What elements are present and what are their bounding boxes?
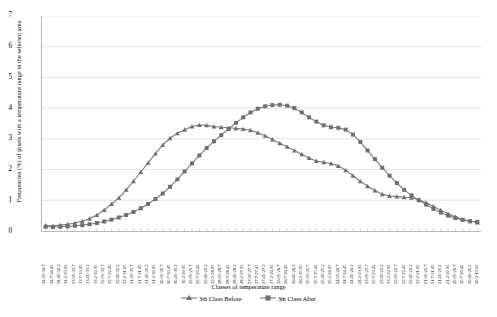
x-tick-label: 23.7-23.45: [371, 265, 376, 284]
x-tick-label: 31.95-31.7: [129, 265, 134, 284]
x-tick-label: 21.7-21.45: [430, 265, 435, 284]
y-tick-value: 5: [0, 73, 12, 81]
legend-item-after[interactable]: 3th Class After: [260, 294, 316, 302]
x-tick-label: 23.45-23.2: [379, 265, 384, 284]
x-tick-label: 26.7-26.45: [283, 265, 288, 284]
x-tick-label: 28.7-28.45: [225, 265, 230, 284]
plot-area: [41, 16, 481, 232]
y-tick-value: 2: [0, 165, 12, 173]
x-tick-label: 30.45-30.2: [173, 265, 178, 284]
x-tick-label: 22.45-22.2: [408, 265, 413, 284]
x-tick-label: 20.45-20.2: [467, 265, 472, 284]
y-tick-value: 1: [0, 196, 12, 204]
legend-item-before[interactable]: 3th Class Before: [181, 294, 242, 302]
x-tick-label: 21.95-21.7: [423, 265, 428, 284]
y-axis-title: Frequencies (%) of pixels with a tempera…: [16, 7, 23, 217]
x-tick-label: 30.7-30.45: [166, 265, 171, 284]
series-canvas: [42, 16, 481, 231]
x-tick-label: 32.95-32.7: [100, 265, 105, 284]
legend-triangle-marker-icon: [181, 294, 197, 302]
legend-label-before: 3th Class Before: [199, 295, 242, 302]
x-tick-label: 25.45-25.2: [320, 265, 325, 284]
x-tick-label: 27.45-27.2: [261, 265, 266, 284]
x-tick-label: 27.2-26.95: [269, 265, 274, 284]
x-tick-label: 24.45-24.2: [349, 265, 354, 284]
x-tick-label: 29.45-29.2: [203, 265, 208, 284]
x-tick-label: 20.7-20.45: [459, 265, 464, 284]
x-tick-label: 33.7-33.45: [78, 265, 83, 284]
x-tick-label: 24.95-24.7: [335, 265, 340, 284]
x-tick-label: 30.95-30.7: [159, 265, 164, 284]
x-tick-label: 26.2-25.95: [298, 265, 303, 284]
x-tick-label: 25.95-25.7: [305, 265, 310, 284]
x-tick-label: 34.7-34.45: [49, 265, 54, 284]
x-tick-label: 21.45-21.2: [437, 265, 442, 284]
x-tick-label: 20.2-19.95: [474, 265, 479, 284]
x-tick-label: 28.45-28.2: [232, 265, 237, 284]
x-tick-label: 32.45-32.2: [115, 265, 120, 284]
chart-legend: 3th Class Before 3th Class After: [0, 294, 497, 302]
x-tick-label: 25.7-25.45: [313, 265, 318, 284]
x-tick-label: 32.7-32.45: [107, 265, 112, 284]
x-tick-label: 34.2-33.95: [63, 265, 68, 284]
chart-container: Frequencies (%) of pixels with a tempera…: [0, 0, 497, 317]
x-tick-label: 33.2-32.95: [93, 265, 98, 284]
x-tick-label: 30.2-29.95: [181, 265, 186, 284]
y-tick-value: 6: [0, 42, 12, 50]
x-tick-label: 32.2-31.95: [122, 265, 127, 284]
x-tick-label: 31.7-31.45: [137, 265, 142, 284]
x-tick-label: 28.95-28.7: [217, 265, 222, 284]
x-tick-label: 27.95-27.7: [247, 265, 252, 284]
x-tick-label: 31.2-30.95: [151, 265, 156, 284]
x-tick-label: 25.2-24.95: [327, 265, 332, 284]
x-tick-label: 29.2-28.95: [210, 265, 215, 284]
legend-square-marker-icon: [260, 294, 276, 302]
x-tick-label: 27.7-27.45: [254, 265, 259, 284]
x-tick-label: 20.95-20.7: [452, 265, 457, 284]
x-tick-label: 26.95-26.7: [276, 265, 281, 284]
x-tick-label: 24.7-24.45: [342, 265, 347, 284]
y-tick-value: 0: [0, 227, 12, 235]
x-tick-label: 33.95-33.7: [71, 265, 76, 284]
x-axis-tick-labels: 34.95-34.734.7-34.4534.45-34.234.2-33.95…: [41, 234, 481, 284]
y-tick-value: 4: [0, 104, 12, 112]
x-tick-label: 29.95-29.7: [188, 265, 193, 284]
x-tick-label: 34.45-34.2: [56, 265, 61, 284]
y-tick-value: 7: [0, 11, 12, 19]
x-tick-label: 31.45-31.2: [144, 265, 149, 284]
x-tick-label: 28.2-27.95: [239, 265, 244, 284]
x-tick-label: 22.2-21.95: [415, 265, 420, 284]
y-tick-value: 3: [0, 134, 12, 142]
x-axis-title: Classes of temperature range: [0, 283, 497, 290]
x-tick-label: 29.7-29.45: [195, 265, 200, 284]
x-tick-label: 22.7-22.45: [401, 265, 406, 284]
x-tick-label: 26.45-26.2: [291, 265, 296, 284]
x-tick-label: 21.2-20.95: [445, 265, 450, 284]
x-tick-label: 33.45-33.2: [85, 265, 90, 284]
x-tick-label: 22.95-22.7: [393, 265, 398, 284]
x-tick-label: 23.2-22.95: [386, 265, 391, 284]
x-tick-label: 24.2-23.95: [357, 265, 362, 284]
legend-label-after: 3th Class After: [278, 295, 316, 302]
x-tick-label: 23.95-23.7: [364, 265, 369, 284]
x-tick-label: 34.95-34.7: [41, 265, 46, 284]
